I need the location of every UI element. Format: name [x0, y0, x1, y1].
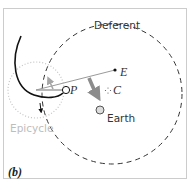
- epicycle-label: Epicycle: [10, 123, 53, 134]
- center-label: C: [113, 84, 121, 96]
- earth-marker: [96, 106, 104, 114]
- epicycle-deferent-diagram: Deferent Epicycle Earth P E C (b): [0, 0, 190, 181]
- planet-label: P: [70, 84, 77, 96]
- equant-point: [113, 68, 116, 71]
- earth-label: Earth: [107, 113, 135, 124]
- deferent-label: Deferent: [94, 20, 140, 31]
- planet-marker: [62, 86, 69, 93]
- panel-label: (b): [8, 166, 22, 178]
- equant-label: E: [120, 66, 127, 78]
